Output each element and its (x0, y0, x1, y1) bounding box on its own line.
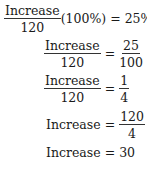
fraction-rhs: 1 4 (119, 74, 129, 104)
equation-line-3: Increase 120 = 1 4 (44, 74, 129, 104)
equals-sign: = (110, 12, 120, 26)
percent-factor: (100%) (61, 12, 107, 26)
fraction-increase-over-120: Increase 120 (4, 4, 61, 34)
denominator: 120 (20, 19, 44, 34)
result-value: 25% (125, 12, 147, 26)
result-value: 30 (119, 146, 135, 160)
variable-increase: Increase (46, 146, 101, 160)
fraction-lhs: Increase 120 (44, 39, 101, 69)
fraction-rhs: 120 4 (119, 110, 145, 140)
denominator: 120 (60, 54, 84, 69)
variable-increase: Increase (46, 118, 101, 132)
equation-line-1: Increase 120 (100%) = 25% (4, 4, 147, 34)
numerator: Increase (44, 39, 101, 54)
denominator: 120 (60, 89, 84, 104)
equals-sign: = (105, 118, 115, 132)
equation-line-5: Increase = 30 (46, 146, 135, 160)
numerator: Increase (44, 74, 101, 89)
equals-sign: = (105, 146, 115, 160)
equals-sign: = (105, 82, 115, 96)
equation-line-2: Increase 120 = 25 100 (44, 39, 143, 69)
denominator: 4 (128, 125, 136, 140)
equation-line-4: Increase = 120 4 (46, 110, 145, 140)
denominator: 4 (120, 89, 128, 104)
equals-sign: = (105, 47, 115, 61)
numerator: Increase (4, 4, 61, 19)
numerator: 25 (122, 39, 140, 54)
fraction-lhs: Increase 120 (44, 74, 101, 104)
fraction-rhs: 25 100 (119, 39, 143, 69)
numerator: 1 (119, 74, 129, 89)
denominator: 100 (119, 54, 143, 69)
numerator: 120 (119, 110, 145, 125)
